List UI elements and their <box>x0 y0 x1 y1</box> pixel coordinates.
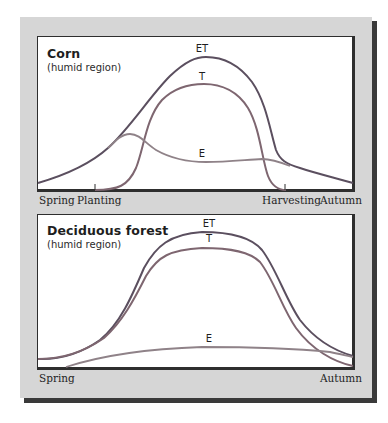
bottom-t-curve <box>38 248 353 366</box>
bottom-e-curve <box>66 347 353 367</box>
bottom-chart-curves <box>0 0 388 423</box>
bottom-axis-spring: Spring <box>39 372 75 384</box>
bottom-axis-autumn: Autumn <box>320 372 362 384</box>
bottom-chart-title: Deciduous forest <box>47 223 168 238</box>
bottom-t-label: T <box>206 233 212 244</box>
bottom-chart-subtitle: (humid region) <box>47 239 121 250</box>
bottom-et-label: ET <box>203 218 215 229</box>
bottom-e-label: E <box>206 333 212 344</box>
